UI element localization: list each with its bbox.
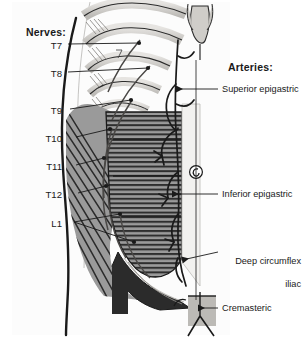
anatomy-figure: Nerves: T7 T8 T9 T10 T11 T12 L1 Arteries… — [0, 0, 303, 337]
artery-label-line2: iliac — [285, 279, 301, 289]
nerve-label-t12: T12 — [22, 189, 62, 200]
artery-label-superior-epigastric: Superior epigastric — [222, 84, 299, 95]
nerve-label-t7: T7 — [22, 40, 62, 51]
nerve-label-l1: L1 — [22, 218, 62, 229]
nerves-heading: Nerves: — [26, 26, 66, 38]
anterior-aponeurosis — [182, 104, 200, 286]
nerve-label-t8: T8 — [22, 68, 62, 79]
artery-label-inferior-epigastric: Inferior epigastric — [222, 189, 292, 200]
nerve-label-t10: T10 — [22, 133, 62, 144]
artery-label-cremasteric: Cremasteric — [222, 303, 272, 314]
artery-label-line1: Deep circumflex — [235, 256, 301, 266]
nerve-label-t11: T11 — [22, 161, 62, 172]
artery-label-deep-circumflex-iliac: Deep circumflex iliac — [215, 244, 301, 302]
arteries-heading: Arteries: — [228, 61, 273, 73]
nerve-label-t9: T9 — [22, 105, 62, 116]
muscle-stump — [112, 268, 128, 314]
